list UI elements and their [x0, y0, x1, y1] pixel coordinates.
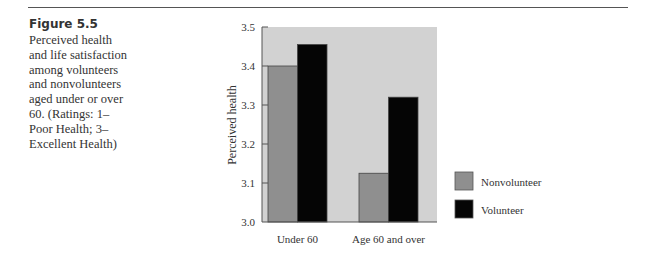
legend-label-volunteer: Volunteer	[481, 204, 524, 216]
bar-volunteer-0	[298, 45, 328, 222]
y-tick-label: 3.2	[241, 138, 255, 150]
y-tick-label: 3.3	[241, 99, 255, 111]
x-category-label: Under 60	[277, 233, 319, 245]
legend-swatch-nonvolunteer	[455, 172, 473, 190]
bar-volunteer-1	[389, 97, 419, 222]
x-category-label: Age 60 and over	[352, 233, 425, 245]
y-tick-label: 3.1	[241, 177, 255, 189]
y-tick-label: 3.0	[241, 216, 255, 228]
legend-label-nonvolunteer: Nonvolunteer	[481, 176, 542, 188]
bar-nonvolunteer-1	[359, 173, 389, 222]
y-tick-label: 3.4	[241, 60, 255, 72]
legend-swatch-volunteer	[455, 200, 473, 218]
y-tick-label: 3.5	[241, 21, 255, 33]
bar-chart: 3.03.13.23.33.43.5 Under 60Age 60 and ov…	[0, 0, 646, 255]
bar-nonvolunteer-0	[268, 66, 298, 222]
y-axis-label: Perceived health	[225, 85, 239, 165]
